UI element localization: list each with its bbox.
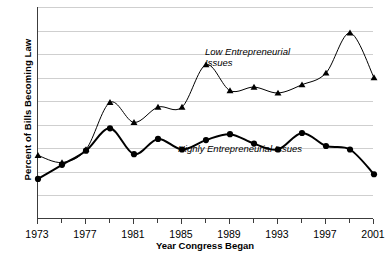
x-tick-mark — [349, 219, 350, 223]
x-tick-label: 1997 — [305, 228, 345, 240]
x-tick-mark — [373, 219, 374, 224]
data-point-circle — [371, 171, 377, 177]
x-tick-mark — [133, 219, 134, 224]
data-point-triangle — [371, 74, 378, 80]
data-point-circle — [131, 151, 137, 157]
data-point-circle — [323, 143, 329, 149]
data-point-circle — [155, 136, 161, 142]
x-tick-mark — [37, 219, 38, 224]
annotation-highly-entrepreneurial: Highly Entrepreneurial Issues — [178, 143, 302, 154]
x-axis-title: Year Congress Began — [37, 240, 373, 251]
data-point-circle — [347, 146, 353, 152]
data-point-circle — [227, 131, 233, 137]
x-tick-mark — [109, 219, 110, 223]
annotation-low-line2: Issues — [205, 57, 290, 68]
series-layer — [38, 7, 374, 219]
x-tick-mark — [253, 219, 254, 223]
x-tick-mark — [229, 219, 230, 224]
data-point-circle — [59, 162, 65, 168]
x-tick-label: 1989 — [209, 228, 249, 240]
x-tick-label: 1985 — [161, 228, 201, 240]
plot-area — [37, 7, 373, 219]
annotation-low-line1: Low Entrepreneurial — [205, 46, 290, 57]
x-tick-mark — [181, 219, 182, 224]
x-tick-mark — [301, 219, 302, 223]
data-point-triangle — [251, 84, 258, 90]
data-point-circle — [35, 176, 41, 182]
y-axis-title: Percent of Bills Becoming Law — [22, 25, 33, 195]
x-tick-mark — [277, 219, 278, 224]
data-point-circle — [299, 130, 305, 136]
x-tick-mark — [325, 219, 326, 224]
x-tick-label: 1981 — [113, 228, 153, 240]
data-point-triangle — [323, 70, 330, 76]
x-tick-mark — [205, 219, 206, 223]
data-point-triangle — [35, 152, 42, 158]
x-tick-mark — [61, 219, 62, 223]
x-tick-label: 1993 — [257, 228, 297, 240]
data-point-circle — [83, 148, 89, 154]
data-point-circle — [107, 125, 113, 131]
x-tick-label: 1977 — [65, 228, 105, 240]
x-tick-mark — [85, 219, 86, 224]
x-tick-label: 2001 — [353, 228, 389, 240]
data-point-triangle — [347, 30, 354, 36]
data-point-triangle — [299, 81, 306, 87]
x-tick-mark — [157, 219, 158, 223]
x-tick-label: 1973 — [17, 228, 57, 240]
annotation-low-entrepreneurial: Low Entrepreneurial Issues — [205, 46, 290, 68]
